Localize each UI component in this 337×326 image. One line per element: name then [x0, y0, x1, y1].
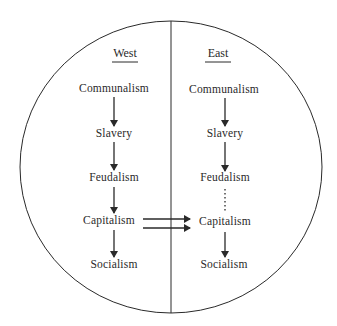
east-stage-socialism: Socialism [200, 258, 247, 270]
west-header: West [113, 46, 137, 61]
west-stage-socialism: Socialism [90, 258, 137, 270]
east-stage-capitalism: Capitalism [199, 215, 251, 227]
diagram-shapes [0, 0, 337, 326]
east-header: East [208, 46, 229, 61]
west-stage-slavery: Slavery [96, 127, 133, 139]
east-stage-communalism: Communalism [189, 83, 259, 95]
west-stage-capitalism: Capitalism [83, 214, 135, 226]
east-stage-feudalism: Feudalism [200, 171, 250, 183]
west-stage-communalism: Communalism [79, 82, 149, 94]
west-stage-feudalism: Feudalism [89, 171, 139, 183]
east-stage-slavery: Slavery [207, 127, 244, 139]
development-diagram: West East Communalism Slavery Feudalism … [0, 0, 337, 326]
